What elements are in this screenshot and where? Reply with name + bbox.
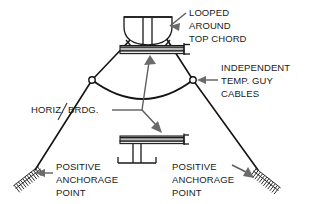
leader-temp-guy-cables [197,76,218,84]
label-anchor-left-line3: POINT [56,187,86,198]
leader-anchorage-right [232,165,254,178]
label-anchorage-point-left: POSITIVE ANCHORAGE POINT [56,161,118,198]
label-anchor-left-line2: ANCHORAGE [56,174,118,185]
label-looped-around-top-chord: LOOPED AROUND TOP CHORD [189,7,247,44]
label-looped-line1: LOOPED [189,7,229,18]
guy-cable-bracing-diagram: LOOPED AROUND TOP CHORD INDEPENDENT TEMP… [0,0,309,204]
diagram-canvas: LOOPED AROUND TOP CHORD INDEPENDENT TEMP… [0,0,309,204]
guy-cable-right [166,38,258,170]
label-horiz-brdg-part2: BRDG. [68,104,99,115]
label-independent-temp-guy-cables: INDEPENDENT TEMP. GUY CABLES [221,62,290,99]
label-looped-line2: AROUND [189,20,231,31]
label-guycables-line1: INDEPENDENT [221,62,290,73]
lower-beam-assembly [118,134,189,164]
anchorage-symbol-right [250,168,281,195]
cable-sag-arc [92,80,193,99]
leader-horiz-brdg [112,55,162,133]
top-chord-loop-assembly [124,17,172,46]
label-horiz-brdg: HORIZ. BRDG. [31,103,99,120]
anchorage-symbol-left [13,166,44,193]
label-anchor-left-line1: POSITIVE [56,161,101,172]
label-horiz-brdg-part1: HORIZ. [31,104,64,115]
label-guycables-line2: TEMP. GUY [221,75,273,86]
label-anchor-right-line3: POINT [172,187,202,198]
label-anchor-right-line2: ANCHORAGE [172,174,234,185]
label-anchorage-point-right: POSITIVE ANCHORAGE POINT [172,161,234,198]
label-guycables-line3: CABLES [221,88,259,99]
guy-cable-node-right [190,77,196,83]
guy-cable-node-left [89,77,95,83]
label-looped-line3: TOP CHORD [189,33,247,44]
label-anchor-right-line1: POSITIVE [172,161,217,172]
